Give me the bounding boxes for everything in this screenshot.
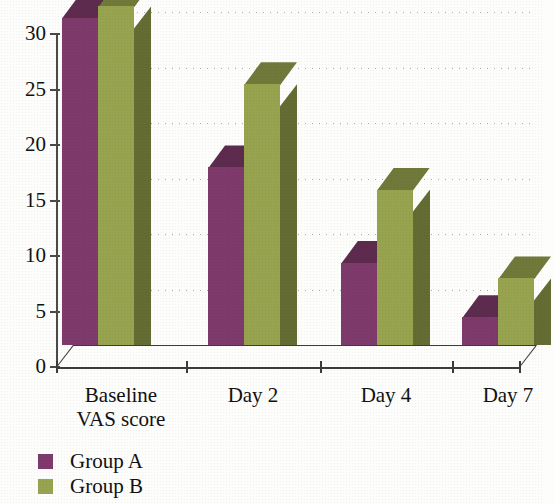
y-axis-tick-label: 0 [4,356,46,377]
bar-group-b-3 [498,278,534,345]
x-axis-tick-mark [56,361,58,373]
bar-side-face [413,190,430,345]
bar-group-b-1 [244,84,280,345]
x-axis-tick-mark [186,361,188,373]
legend-label: Group A [70,451,143,472]
bar-side-face [280,84,297,345]
bar-group-a-2 [341,263,377,345]
floor-right-edge [519,345,537,368]
bar-side-face [134,6,151,345]
bar-group-b-0 [98,6,134,345]
x-axis-tick-mark [452,361,454,373]
y-axis-tick-mark [50,144,60,146]
x-axis-category-label-line: Day 7 [433,383,555,407]
x-axis-category-label: Day 2 [178,383,328,407]
bar-group-a-3 [462,317,498,345]
bar-front-face [62,18,98,345]
bar-group-b-2 [377,190,413,345]
bar-side-face [534,278,551,345]
y-axis-tick-label: 20 [4,134,46,155]
y-axis-tick-label: 5 [4,301,46,322]
y-axis-tick-label: 25 [4,79,46,100]
y-axis-tick-mark [50,89,60,91]
floor-back-edge [73,345,536,346]
legend-swatch-icon [38,479,53,494]
y-axis-tick-label: 15 [4,190,46,211]
bar-front-face [98,6,134,345]
bar-front-face [341,263,377,345]
x-axis-category-label-line: VAS score [46,407,196,431]
legend-item[interactable]: Group A [38,449,143,474]
y-axis-tick-mark [50,311,60,313]
bar-front-face [208,167,244,345]
legend-item[interactable]: Group B [38,474,143,499]
x-axis-category-label: Day 7 [433,383,555,407]
chart-legend: Group AGroup B [38,449,143,499]
y-axis-tick-label: 30 [4,23,46,44]
floor-left-edge [56,345,74,368]
bar-front-face [498,278,534,345]
legend-label: Group B [70,476,143,497]
x-axis-tick-mark [519,361,521,373]
gridline [64,12,536,13]
legend-swatch-icon [38,454,53,469]
y-axis-tick-mark [50,33,60,35]
bar-top-face [498,256,551,279]
y-axis-tick-mark [50,255,60,257]
x-axis-category-label-line: Day 2 [178,383,328,407]
x-axis-category-label: BaselineVAS score [46,383,196,431]
bar-front-face [377,190,413,345]
bar-group-a-1 [208,167,244,345]
y-axis-tick-label: 10 [4,245,46,266]
bar-group-a-0 [62,18,98,345]
bar-front-face [244,84,280,345]
bar-front-face [462,317,498,345]
x-axis-tick-mark [320,361,322,373]
bar-top-face [244,62,297,85]
x-axis-category-label-line: Baseline [46,383,196,407]
y-axis-line [56,34,58,369]
y-axis-tick-mark [50,200,60,202]
x-axis-line [56,367,519,369]
